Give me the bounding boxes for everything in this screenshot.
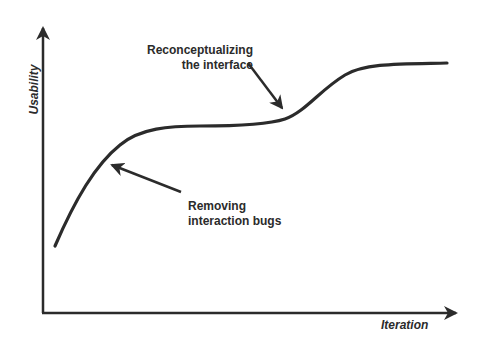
annotation-line2: the interface: [133, 58, 253, 73]
arrow-removing-bugs: [112, 165, 181, 192]
annotation-removing-bugs: Removing interaction bugs: [188, 199, 281, 229]
annotation-line2: interaction bugs: [188, 214, 281, 229]
annotation-line1: Removing: [188, 199, 281, 214]
x-axis-label: Iteration: [381, 318, 428, 333]
y-axis-label: Usability: [27, 60, 42, 120]
annotation-reconceptualizing: Reconceptualizing the interface: [133, 43, 253, 73]
arrow-reconceptualizing: [248, 63, 282, 108]
annotation-line1: Reconceptualizing: [133, 43, 253, 58]
